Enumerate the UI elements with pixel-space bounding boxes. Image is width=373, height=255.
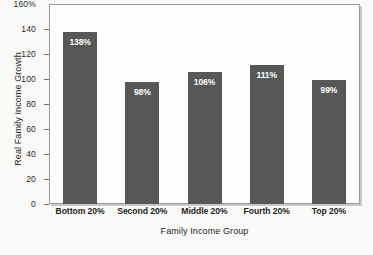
bar-value-label: 99% <box>312 85 346 95</box>
chart-screenshot: 020406080100120140160% Real Family Incom… <box>0 0 373 255</box>
x-axis-title: Family Income Group <box>49 226 360 236</box>
y-axis-tick-label: 160% <box>13 0 36 9</box>
x-axis-tick-label: Top 20% <box>298 206 360 216</box>
y-axis-tick-label: 60 <box>26 124 36 134</box>
x-axis-tick-label: Second 20% <box>111 206 173 216</box>
bar-value-label: 98% <box>125 87 159 97</box>
y-axis-tick-mark <box>44 204 49 205</box>
bar-series: 138%98%106%111%99% <box>49 4 360 204</box>
x-axis: Bottom 20%Second 20%Middle 20%Fourth 20%… <box>49 206 360 222</box>
bar: 138% <box>63 32 97 205</box>
y-axis-title: Real Family Income Growth <box>13 29 23 189</box>
y-axis-tick-label: 80 <box>26 99 36 109</box>
y-axis-tick-label: 100 <box>21 74 36 84</box>
bar-value-label: 106% <box>188 77 222 87</box>
y-axis-tick-label: 0 <box>31 199 36 209</box>
y-axis-tick-label: 40 <box>26 149 36 159</box>
x-axis-tick-label: Fourth 20% <box>236 206 298 216</box>
y-axis-tick-label: 120 <box>21 49 36 59</box>
bar: 111% <box>250 65 284 204</box>
y-axis: 020406080100120140160% <box>0 0 49 255</box>
bar-value-label: 138% <box>63 37 97 47</box>
bar: 98% <box>125 82 159 205</box>
y-axis-tick-label: 20 <box>26 174 36 184</box>
bar: 99% <box>312 80 346 204</box>
bar: 106% <box>188 72 222 205</box>
bar-value-label: 111% <box>250 70 284 80</box>
x-axis-tick-label: Middle 20% <box>173 206 235 216</box>
y-axis-tick-label: 140 <box>21 24 36 34</box>
x-axis-tick-label: Bottom 20% <box>49 206 111 216</box>
